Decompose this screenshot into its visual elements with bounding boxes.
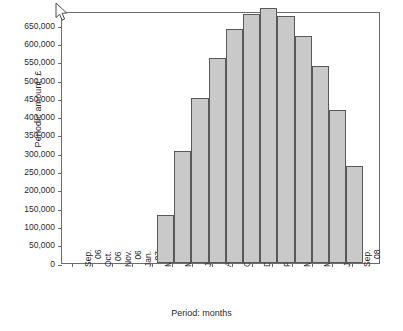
- y-tick-label: 250,000: [24, 167, 55, 177]
- bar[interactable]: [226, 29, 243, 263]
- y-tick-mark: [58, 173, 62, 174]
- bar[interactable]: [191, 98, 208, 263]
- y-tick-label: 0: [50, 259, 55, 269]
- x-tick-mark: [272, 263, 273, 267]
- y-tick-label: 650,000: [24, 21, 55, 31]
- x-tick-mark: [172, 263, 173, 267]
- x-tick-mark: [212, 263, 213, 267]
- x-tick-label-year: 06: [93, 250, 103, 268]
- x-tick-label-year: 08: [372, 250, 382, 268]
- x-tick-label-month: Sep.: [362, 250, 372, 268]
- y-tick-label: 300,000: [24, 149, 55, 159]
- bar[interactable]: [346, 166, 363, 263]
- y-tick-mark: [58, 265, 62, 266]
- x-tick-mark: [312, 263, 313, 267]
- x-tick-label-year: 06: [133, 250, 143, 267]
- y-tick-mark: [58, 228, 62, 229]
- y-tick-mark: [58, 27, 62, 28]
- bar[interactable]: [174, 151, 191, 263]
- y-tick-label: 100,000: [24, 222, 55, 232]
- y-tick-mark: [58, 45, 62, 46]
- y-tick-label: 600,000: [24, 39, 55, 49]
- y-tick-mark: [58, 63, 62, 64]
- bar[interactable]: [209, 58, 226, 263]
- y-tick-mark: [58, 136, 62, 137]
- y-tick-label: 150,000: [24, 204, 55, 214]
- x-tick-mark: [252, 263, 253, 267]
- x-tick-label: Sep.08: [362, 250, 382, 268]
- x-tick-mark: [292, 263, 293, 267]
- y-tick-mark: [58, 118, 62, 119]
- bar[interactable]: [260, 8, 277, 263]
- y-tick-mark: [58, 210, 62, 211]
- y-tick-mark: [58, 100, 62, 101]
- x-tick-mark: [72, 263, 73, 267]
- x-tick-mark: [132, 263, 133, 267]
- y-tick-label: 400,000: [24, 112, 55, 122]
- x-tick-mark: [92, 263, 93, 267]
- bar[interactable]: [329, 110, 346, 263]
- bar[interactable]: [157, 215, 174, 263]
- y-tick-label: 550,000: [24, 57, 55, 67]
- x-tick-mark: [232, 263, 233, 267]
- y-tick-label: 450,000: [24, 94, 55, 104]
- x-tick-label-year: 06: [113, 251, 123, 267]
- plot-area: 050,000100,000150,000200,000250,000300,0…: [61, 12, 380, 264]
- y-tick-mark: [58, 155, 62, 156]
- y-tick-label: 200,000: [24, 185, 55, 195]
- bar[interactable]: [277, 16, 294, 263]
- x-tick-mark: [192, 263, 193, 267]
- bar[interactable]: [243, 14, 260, 263]
- x-tick-mark: [332, 263, 333, 267]
- bar[interactable]: [295, 36, 312, 263]
- x-tick-mark: [352, 263, 353, 267]
- y-tick-mark: [58, 191, 62, 192]
- x-tick-mark: [152, 263, 153, 267]
- y-tick-mark: [58, 82, 62, 83]
- x-tick-mark: [112, 263, 113, 267]
- x-axis-title: Period: months: [0, 308, 403, 318]
- y-tick-mark: [58, 246, 62, 247]
- bar-chart: Periodic amount: £ 050,000100,000150,000…: [0, 0, 403, 331]
- y-tick-label: 500,000: [24, 76, 55, 86]
- y-tick-label: 50,000: [29, 240, 55, 250]
- bar[interactable]: [312, 66, 329, 263]
- y-tick-label: 350,000: [24, 130, 55, 140]
